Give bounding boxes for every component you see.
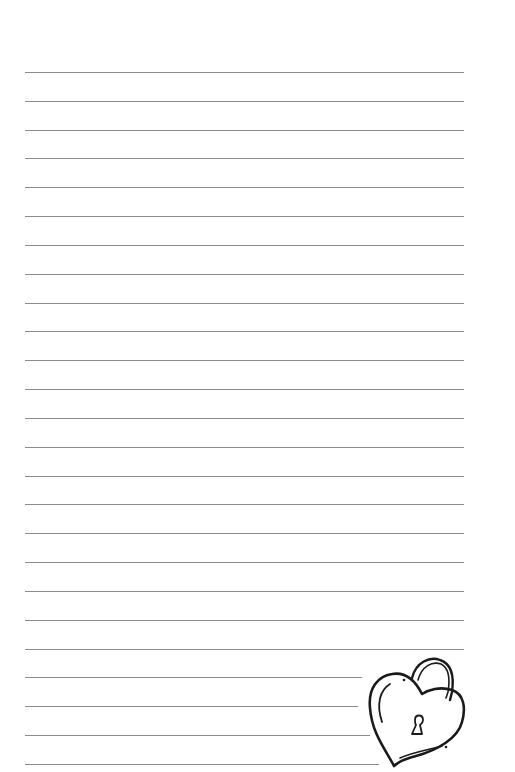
ruled-line (25, 764, 379, 765)
ruled-line (25, 562, 464, 563)
ruled-line (25, 476, 464, 477)
ruled-line (25, 216, 464, 217)
ruled-line (25, 677, 362, 678)
ruled-line (25, 274, 464, 275)
ruled-line (25, 447, 464, 448)
ruled-line (25, 649, 464, 650)
ruled-line (25, 158, 464, 159)
ruled-line (25, 101, 464, 102)
ruled-line (25, 735, 370, 736)
heart-padlock-icon (364, 652, 468, 772)
ruled-line (25, 245, 464, 246)
ruled-line (25, 389, 464, 390)
ruled-line (25, 533, 464, 534)
ruled-line (25, 130, 464, 131)
ruled-line (25, 360, 464, 361)
ruled-line (25, 331, 464, 332)
ruled-line (25, 591, 464, 592)
ruled-line (25, 418, 464, 419)
ruled-line (25, 72, 464, 73)
ruled-line (25, 706, 358, 707)
ruled-line (25, 303, 464, 304)
lined-paper-page (0, 0, 515, 772)
ruled-line (25, 620, 464, 621)
ruled-line (25, 187, 464, 188)
ruled-line (25, 504, 464, 505)
